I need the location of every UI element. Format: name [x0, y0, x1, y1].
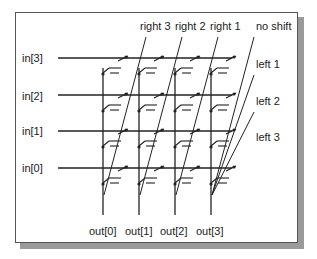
labels: in[3] in[2] in[1] in[0] out[0] out[1] ou…	[22, 20, 291, 237]
crosspoint-node	[160, 55, 163, 58]
crosspoint-node	[196, 55, 199, 58]
crosspoint-node	[124, 92, 127, 95]
crosspoint-node	[232, 165, 235, 168]
output-node	[137, 145, 140, 148]
crossbar-diagram: in[3] in[2] in[1] in[0] out[0] out[1] ou…	[0, 0, 317, 259]
input-label-0: in[0]	[22, 162, 43, 174]
shift-label-left-1: left 1	[256, 58, 280, 70]
transistor-lead	[139, 141, 145, 146]
output-label-2: out[2]	[160, 225, 188, 237]
crosspoint-node	[196, 128, 199, 131]
control-line-no-shift	[212, 37, 254, 195]
output-node	[137, 72, 140, 75]
transistor-lead	[175, 68, 181, 73]
output-node	[101, 182, 104, 185]
output-label-0: out[0]	[89, 225, 117, 237]
crosspoint-node	[124, 55, 127, 58]
transistor-lead	[139, 68, 145, 73]
control-line-right-1	[176, 37, 218, 195]
output-node	[173, 72, 176, 75]
crosspoint-node	[196, 165, 199, 168]
output-node	[137, 109, 140, 112]
shift-label-right-1: right 1	[210, 20, 241, 32]
control-line-right-3	[104, 37, 146, 195]
control-line-right-2	[140, 37, 182, 195]
shift-label-right-3: right 3	[140, 20, 171, 32]
crosspoint-node	[196, 92, 199, 95]
input-label-2: in[2]	[22, 90, 43, 102]
crosspoint-node	[232, 55, 235, 58]
shift-label-left-2: left 2	[256, 95, 280, 107]
output-node	[101, 145, 104, 148]
transistor-lead	[103, 68, 109, 73]
transistor-lead	[139, 105, 145, 110]
transistor-lead	[175, 105, 181, 110]
output-node	[101, 109, 104, 112]
crosspoint-node	[160, 128, 163, 131]
output-node	[173, 145, 176, 148]
output-node	[209, 72, 212, 75]
transistor-lead	[211, 105, 217, 110]
transistor-lead	[103, 105, 109, 110]
output-node	[209, 145, 212, 148]
crosspoint-node	[160, 165, 163, 168]
output-node	[209, 182, 212, 185]
crosspoint-node	[124, 128, 127, 131]
transistor-lead	[211, 141, 217, 146]
shift-label-right-2: right 2	[175, 20, 206, 32]
crosspoint-node	[124, 165, 127, 168]
output-node	[137, 182, 140, 185]
control-line-left-2	[212, 112, 254, 195]
crosspoint-node	[232, 92, 235, 95]
output-node	[209, 109, 212, 112]
input-label-1: in[1]	[22, 125, 43, 137]
transistor-lead	[103, 141, 109, 146]
shift-label-no-shift: no shift	[256, 20, 291, 32]
wires	[58, 37, 254, 215]
output-node	[173, 109, 176, 112]
output-node	[101, 72, 104, 75]
shift-label-left-3: left 3	[256, 131, 280, 143]
output-label-3: out[3]	[196, 225, 224, 237]
input-label-3: in[3]	[22, 52, 43, 64]
output-label-1: out[1]	[125, 225, 153, 237]
output-node	[173, 182, 176, 185]
transistor-lead	[175, 141, 181, 146]
transistor-lead	[211, 68, 217, 73]
crosspoint-node	[160, 92, 163, 95]
